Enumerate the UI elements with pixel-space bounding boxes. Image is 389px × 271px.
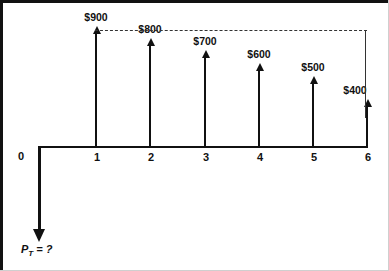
dashed-bracket-horizontal: [95, 30, 367, 31]
cash-flow-arrow-head-period-4: [256, 63, 264, 71]
axis-tick-label-5: 5: [302, 151, 326, 164]
axis-tick-label-1: 1: [85, 151, 109, 164]
cash-flow-arrow-shaft-period-6: [366, 106, 368, 146]
present-worth-label: PT = ?: [21, 243, 53, 258]
axis-tick-label-0: 0: [18, 150, 24, 162]
cash-flow-label-period-5: $500: [289, 61, 337, 73]
cash-flow-arrow-shaft-period-4: [258, 70, 260, 146]
cash-flow-label-period-2: $800: [126, 23, 174, 35]
cash-flow-arrow-shaft-period-1: [95, 33, 97, 146]
cash-flow-arrow-shaft-period-5: [312, 83, 314, 146]
cash-flow-diagram: 0 123456 $900$800$700$600$500$400 PT = ?: [0, 0, 389, 271]
axis-tick-label-3: 3: [194, 151, 218, 164]
cash-flow-label-period-3: $700: [181, 35, 229, 47]
dashed-bracket-vertical: [365, 30, 366, 118]
figure-frame: 0 123456 $900$800$700$600$500$400 PT = ?: [0, 0, 389, 271]
cash-flow-label-period-1: $900: [72, 11, 120, 23]
axis-tick-label-4: 4: [248, 151, 272, 164]
cash-flow-arrow-head-period-3: [202, 50, 210, 58]
cash-flow-arrow-head-period-5: [310, 76, 318, 84]
axis-tick-label-6: 6: [356, 151, 380, 164]
axis-tick-label-2: 2: [139, 151, 163, 164]
present-worth-arrow-head: [33, 229, 45, 242]
cash-flow-arrow-head-period-2: [147, 38, 155, 46]
time-axis-line: [38, 146, 367, 148]
present-worth-value: = ?: [36, 243, 52, 255]
cash-flow-label-period-4: $600: [235, 48, 283, 60]
cash-flow-arrow-shaft-period-3: [204, 57, 206, 146]
present-worth-subscript: T: [28, 249, 33, 258]
cash-flow-label-period-6: $400: [331, 84, 379, 96]
cash-flow-arrow-shaft-period-2: [149, 45, 151, 146]
present-worth-arrow-shaft: [38, 146, 41, 232]
